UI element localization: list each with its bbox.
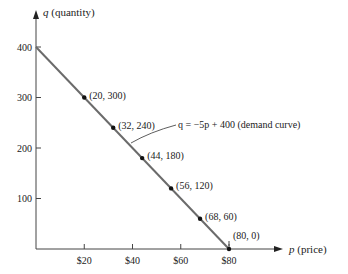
data-point bbox=[198, 217, 202, 221]
point-label: (56, 120) bbox=[176, 180, 213, 192]
x-tick-label: $20 bbox=[77, 255, 92, 266]
point-label: (44, 180) bbox=[147, 150, 184, 162]
demand-curve-chart: p (price)q (quantity)$20$40$60$801002003… bbox=[0, 0, 348, 274]
y-axis-arrow-icon bbox=[33, 10, 39, 19]
data-point bbox=[140, 156, 144, 160]
x-tick-label: $40 bbox=[125, 255, 140, 266]
y-tick-label: 100 bbox=[17, 193, 32, 204]
x-axis-arrow-icon bbox=[274, 246, 283, 252]
data-point bbox=[111, 126, 115, 130]
x-tick-label: $60 bbox=[173, 255, 188, 266]
data-point bbox=[227, 247, 231, 251]
point-label: (80, 0) bbox=[233, 230, 260, 242]
point-label: (68, 60) bbox=[205, 211, 237, 223]
point-label: (20, 300) bbox=[89, 90, 126, 102]
y-tick-label: 300 bbox=[17, 92, 32, 103]
x-tick-label: $80 bbox=[222, 255, 237, 266]
data-point bbox=[169, 186, 173, 190]
y-tick-label: 400 bbox=[17, 42, 32, 53]
point-label: (32, 240) bbox=[118, 120, 155, 132]
y-axis-label: q (quantity) bbox=[43, 6, 95, 19]
equation-annotation: q = −5p + 400 (demand curve) bbox=[178, 119, 300, 131]
y-tick-label: 200 bbox=[17, 143, 32, 154]
data-point bbox=[82, 95, 86, 99]
x-axis-label: p (price) bbox=[288, 243, 327, 256]
